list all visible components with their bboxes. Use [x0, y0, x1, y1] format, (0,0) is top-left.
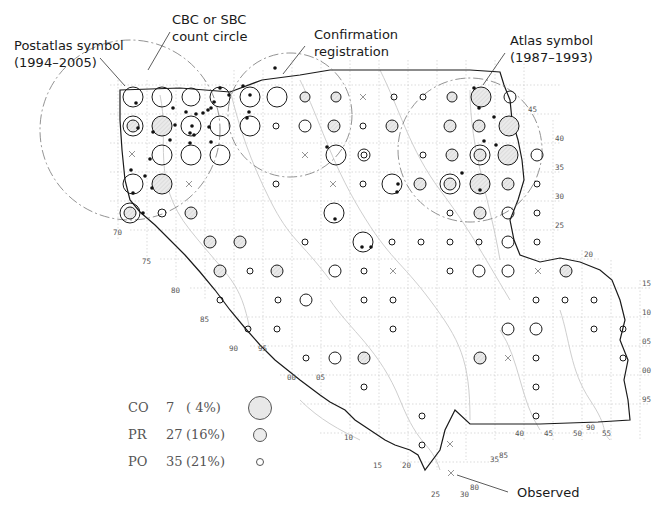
callout-cbc-count-circle: CBC or SBC count circle [172, 11, 247, 45]
callout-line: Confirmation [314, 26, 398, 43]
large-shaded-circle-icon [248, 396, 272, 420]
svg-text:85: 85 [499, 451, 508, 460]
callout-atlas-symbol: Atlas symbol (1987–1993) [510, 32, 593, 66]
svg-text:20: 20 [584, 250, 594, 259]
svg-text:40: 40 [515, 429, 525, 438]
callout-postatlas-symbol: Postatlas symbol (1994–2005) [14, 37, 124, 71]
callout-confirmation-registration: Confirmation registration [314, 26, 398, 60]
svg-text:95: 95 [642, 395, 651, 404]
legend-count: 27 [166, 427, 183, 442]
legend-percent: (16%) [186, 427, 225, 442]
medium-shaded-circle-icon [253, 428, 267, 442]
svg-text:40: 40 [555, 134, 565, 143]
small-open-circle-icon [256, 458, 264, 466]
legend-count: 35 [166, 454, 183, 469]
callout-line: count circle [172, 28, 247, 45]
svg-text:50: 50 [573, 429, 583, 438]
svg-text:10: 10 [642, 308, 652, 317]
svg-text:35: 35 [555, 163, 564, 172]
callout-line: (1994–2005) [14, 54, 124, 71]
confirmation-dots [129, 66, 498, 249]
svg-text:70: 70 [113, 228, 123, 237]
legend-code: CO [128, 400, 149, 415]
legend-row-possible: PO 35 (21%) [128, 450, 298, 477]
svg-text:00: 00 [642, 366, 652, 375]
legend: CO 7 ( 4%) PR 27 (16%) PO 35 (21%) [128, 396, 298, 477]
svg-text:15: 15 [373, 461, 382, 470]
svg-text:95: 95 [258, 344, 267, 353]
legend-percent: (21%) [186, 454, 225, 469]
svg-text:30: 30 [555, 192, 565, 201]
svg-text:90: 90 [229, 344, 239, 353]
legend-count: 7 [166, 400, 174, 415]
callout-line: registration [314, 43, 398, 60]
callout-line: Observed [517, 484, 580, 501]
callout-line: CBC or SBC [172, 11, 247, 28]
svg-text:45: 45 [528, 105, 537, 114]
callout-line: Postatlas symbol [14, 37, 124, 54]
svg-text:45: 45 [544, 429, 553, 438]
svg-text:35: 35 [490, 455, 499, 464]
callout-line: (1987–1993) [510, 49, 593, 66]
svg-text:15: 15 [642, 279, 651, 288]
svg-text:80: 80 [470, 483, 480, 492]
svg-text:30: 30 [460, 490, 470, 499]
legend-row-confirmed: CO 7 ( 4%) [128, 396, 298, 423]
svg-text:90: 90 [586, 423, 596, 432]
legend-percent: ( 4%) [186, 400, 221, 415]
svg-text:00: 00 [287, 373, 297, 382]
svg-text:25: 25 [555, 221, 564, 230]
svg-text:05: 05 [642, 337, 651, 346]
legend-code: PO [128, 454, 147, 469]
callout-observed: Observed [517, 484, 580, 501]
svg-text:55: 55 [602, 429, 611, 438]
svg-text:85: 85 [200, 315, 209, 324]
svg-text:80: 80 [171, 286, 181, 295]
distribution-map: 70 75 80 85 90 95 00 05 10 15 20 25 30 8… [0, 0, 668, 517]
svg-text:75: 75 [142, 257, 151, 266]
svg-text:05: 05 [316, 373, 325, 382]
callout-line: Atlas symbol [510, 32, 593, 49]
legend-row-probable: PR 27 (16%) [128, 423, 298, 450]
svg-text:10: 10 [344, 433, 354, 442]
svg-text:25: 25 [431, 490, 440, 499]
legend-code: PR [128, 427, 147, 442]
svg-text:20: 20 [402, 461, 412, 470]
